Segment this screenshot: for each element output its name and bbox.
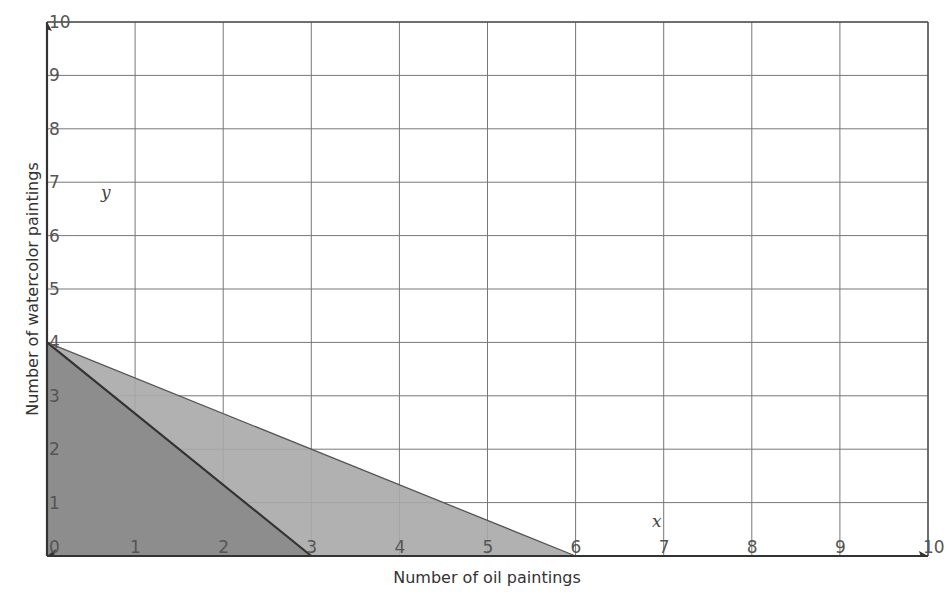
x-tick-label: 1 bbox=[130, 537, 141, 557]
x-variable-label: x bbox=[652, 511, 662, 531]
x-tick-label: 9 bbox=[835, 537, 846, 557]
y-axis-label: Number of watercolor paintings bbox=[23, 162, 42, 415]
x-tick-label: 10 bbox=[923, 537, 945, 557]
y-tick-label: 6 bbox=[49, 226, 60, 246]
y-tick-label: 7 bbox=[49, 172, 60, 192]
x-tick-label: 3 bbox=[306, 537, 317, 557]
x-tick-label: 2 bbox=[218, 537, 229, 557]
y-tick-label: 10 bbox=[49, 12, 71, 32]
x-tick-label: 5 bbox=[483, 537, 494, 557]
y-tick-label: 3 bbox=[49, 386, 60, 406]
x-axis-label: Number of oil paintings bbox=[393, 568, 581, 587]
x-tick-label: 7 bbox=[659, 537, 670, 557]
feasible-region-chart: 01234567891012345678910 y x Number of oi… bbox=[0, 0, 949, 600]
x-tick-label: 0 bbox=[49, 537, 60, 557]
x-tick-label: 6 bbox=[571, 537, 582, 557]
y-tick-label: 8 bbox=[49, 119, 60, 139]
y-tick-label: 9 bbox=[49, 65, 60, 85]
y-tick-label: 5 bbox=[49, 279, 60, 299]
y-tick-label: 1 bbox=[49, 493, 60, 513]
y-tick-label: 2 bbox=[49, 439, 60, 459]
y-tick-label: 4 bbox=[49, 332, 60, 352]
y-variable-label: y bbox=[100, 182, 111, 202]
x-tick-label: 8 bbox=[747, 537, 758, 557]
x-tick-label: 4 bbox=[394, 537, 405, 557]
